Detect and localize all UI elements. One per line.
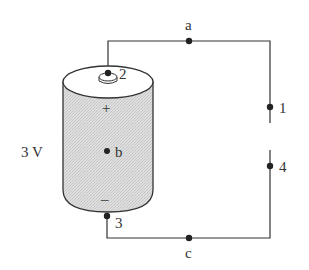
terminal-2-dot — [105, 70, 111, 76]
terminal-3-label: 3 — [115, 215, 123, 231]
point-b-dot — [104, 148, 110, 154]
node-c-label: c — [185, 245, 192, 261]
terminal-2-label: 2 — [119, 66, 127, 82]
terminal-3-dot — [104, 213, 110, 219]
circuit-diagram: a c 1 4 2 3 b 3 V + – — [0, 0, 309, 270]
node-a-dot — [186, 38, 192, 44]
node-a-label: a — [185, 17, 192, 33]
node-4-dot — [267, 163, 273, 169]
node-c-dot — [186, 235, 192, 241]
node-4-label: 4 — [279, 159, 287, 175]
point-b-label: b — [115, 144, 123, 160]
node-1-label: 1 — [279, 100, 287, 116]
battery-voltage-label: 3 V — [21, 144, 43, 160]
positive-sign: + — [102, 100, 110, 116]
node-1-dot — [267, 104, 273, 110]
negative-sign: – — [100, 191, 109, 207]
